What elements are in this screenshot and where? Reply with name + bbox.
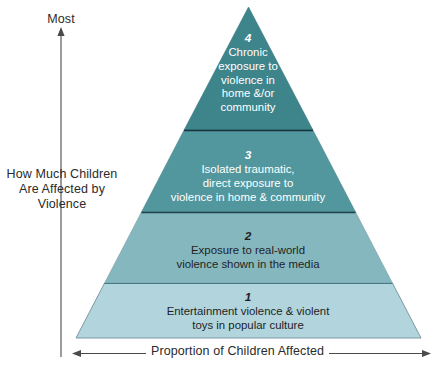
tier-1-number: 1: [108, 290, 388, 305]
pyramid-tier-3-label: 3 Isolated traumatic, direct exposure to…: [148, 148, 348, 204]
y-axis-label-line-2: Are Affected by: [0, 182, 124, 197]
y-axis-label-line-1: How Much Children: [0, 167, 124, 182]
y-axis-arrowhead-icon: [57, 27, 64, 36]
pyramid-tier-2-label: 2 Exposure to real-world violence shown …: [128, 229, 368, 272]
tier-4-number: 4: [178, 31, 318, 46]
pyramid-tier-4-label: 4 Chronic exposure to violence in home &…: [178, 31, 318, 115]
y-axis-label: How Much Children Are Affected by Violen…: [0, 167, 124, 212]
x-axis-arrowhead-right-icon: [422, 350, 431, 357]
y-axis-label-line-3: Violence: [0, 197, 124, 212]
tier-4-line-2: exposure to: [178, 60, 318, 74]
tier-2-line-1: Exposure to real-world: [128, 244, 368, 258]
tier-4-line-5: community: [178, 101, 318, 115]
tier-4-line-4: home &/or: [178, 87, 318, 101]
pyramid-diagram: Most How Much Children Are Affected by V…: [0, 0, 435, 371]
tier-3-line-1: Isolated traumatic,: [148, 163, 348, 177]
tier-1-line-2: toys in popular culture: [108, 319, 388, 333]
x-axis-arrowhead-left-icon: [72, 350, 81, 357]
tier-1-line-1: Entertainment violence & violent: [108, 305, 388, 319]
tier-4-line-3: violence in: [178, 74, 318, 88]
tier-3-number: 3: [148, 148, 348, 163]
tier-2-number: 2: [128, 229, 368, 244]
tier-4-line-1: Chronic: [178, 46, 318, 60]
tier-2-line-2: violence shown in the media: [128, 258, 368, 272]
pyramid-tier-1-label: 1 Entertainment violence & violent toys …: [108, 290, 388, 333]
tier-3-line-2: direct exposure to: [148, 177, 348, 191]
y-axis-top-label: Most: [33, 12, 89, 27]
x-axis-label: Proportion of Children Affected: [146, 344, 329, 359]
tier-3-line-3: violence in home & community: [148, 191, 348, 205]
